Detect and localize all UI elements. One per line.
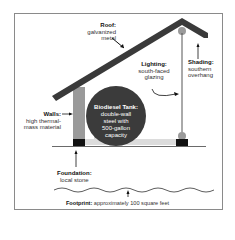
footprint-label: Footprint: approximately 100 square feet — [0, 200, 235, 206]
roof-label: Roof: galvanized metal — [78, 22, 116, 42]
lighting-arrow — [152, 89, 176, 96]
wall-post — [73, 87, 85, 145]
walls-label: Walls: high thermal- mass material — [16, 111, 61, 131]
lighting-label: Lighting: south-faced glazing — [132, 61, 176, 81]
shading-label: Shading: southern overhang — [188, 59, 214, 79]
post-weight — [178, 132, 186, 140]
tank-label: Biodiesel Tank: double-wall steel with 5… — [85, 104, 147, 139]
footprint-wave — [54, 188, 214, 192]
foundation-block-left — [73, 139, 85, 146]
foundation-label: Foundation: local stone — [57, 170, 92, 183]
foundation-block-right — [176, 139, 188, 146]
